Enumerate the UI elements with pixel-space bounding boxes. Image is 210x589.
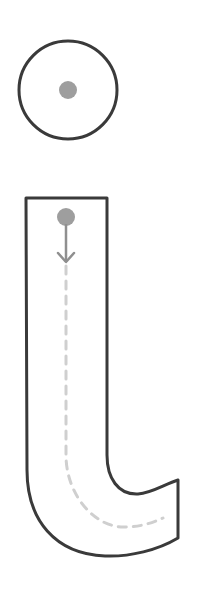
i-stem-outline: [26, 198, 178, 556]
letter-i-tracing-sheet: [0, 0, 210, 589]
i-dot-group: [19, 41, 117, 139]
stem-start-point-icon[interactable]: [57, 208, 75, 226]
i-stem-group: [26, 198, 178, 556]
i-dot-start-point-icon[interactable]: [59, 81, 77, 99]
